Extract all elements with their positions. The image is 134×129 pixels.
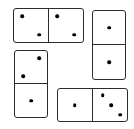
- domino-half-right: [49, 9, 84, 42]
- domino-half-bottom: [93, 45, 125, 79]
- domino-tile-right[interactable]: [92, 10, 126, 80]
- pip: [118, 113, 122, 117]
- domino-half-bottom: [15, 84, 47, 117]
- domino-scene: [0, 0, 134, 129]
- pip: [37, 33, 41, 37]
- domino-tile-top-left[interactable]: [13, 8, 84, 43]
- pip: [73, 103, 77, 107]
- pip: [107, 60, 111, 64]
- pip: [55, 14, 59, 18]
- pip: [37, 56, 41, 60]
- pip: [21, 14, 25, 18]
- pip: [110, 103, 114, 107]
- pip: [29, 99, 33, 103]
- domino-half-left: [58, 89, 93, 121]
- pip: [101, 94, 105, 98]
- domino-half-left: [14, 9, 49, 42]
- pip: [21, 74, 25, 78]
- domino-half-right: [93, 89, 128, 121]
- domino-half-top: [93, 11, 125, 45]
- domino-tile-bottom-right[interactable]: [57, 88, 128, 122]
- domino-half-top: [15, 51, 47, 84]
- pip: [73, 33, 77, 37]
- pip: [107, 26, 111, 30]
- domino-tile-left[interactable]: [14, 50, 48, 118]
